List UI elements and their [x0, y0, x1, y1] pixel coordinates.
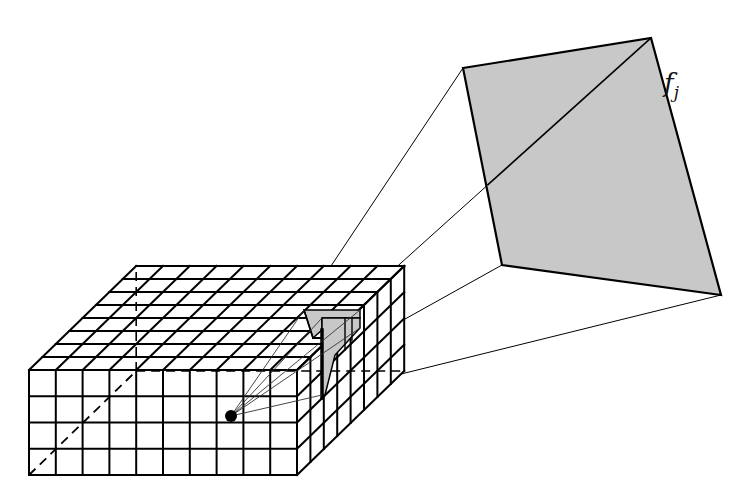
source-point [225, 410, 237, 422]
feature-plane-quad [463, 38, 721, 295]
diagram-canvas: fj [0, 0, 743, 500]
label-subscript-j: j [674, 82, 679, 102]
diagram-svg [0, 0, 743, 500]
label-f: f [664, 68, 674, 98]
feature-plane-label: fj [664, 68, 679, 102]
feature-volume-grid [29, 266, 404, 475]
feature-plane [463, 38, 721, 295]
